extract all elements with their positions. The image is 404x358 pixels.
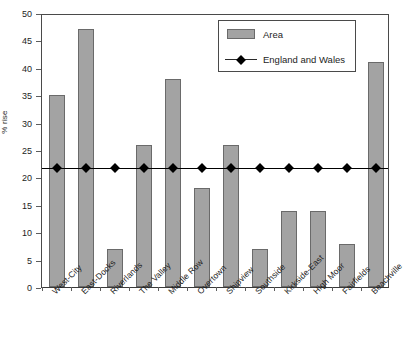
bar-slot — [42, 15, 71, 287]
y-axis-tick-label: 35 — [10, 91, 32, 101]
legend: Area England and Wales — [218, 20, 356, 72]
bar-slot — [129, 15, 158, 287]
y-axis-tick-label: 40 — [10, 64, 32, 74]
bar[interactable] — [368, 62, 384, 287]
y-axis-tick-label: 0 — [10, 283, 32, 293]
bar[interactable] — [49, 95, 65, 287]
legend-label-england-and-wales: England and Wales — [263, 54, 345, 65]
bar-slot — [71, 15, 100, 287]
bar-slot — [187, 15, 216, 287]
legend-entry-area: Area — [219, 21, 355, 47]
legend-swatch-wrap-area — [219, 21, 263, 47]
bar[interactable] — [165, 79, 181, 287]
legend-swatch-wrap-line — [219, 46, 263, 72]
y-axis-tick-label: 25 — [10, 146, 32, 156]
y-axis-tick-label: 30 — [10, 119, 32, 129]
y-axis-tick-label: 5 — [10, 256, 32, 266]
reference-line — [42, 168, 388, 169]
line-diamond-icon — [225, 59, 257, 60]
bar-swatch-icon — [227, 29, 255, 39]
y-axis-tick-label: 50 — [10, 9, 32, 19]
y-axis-tick-label: 15 — [10, 201, 32, 211]
legend-label-area: Area — [263, 29, 283, 40]
y-axis-tick-labels: 05101520253035404550 — [6, 0, 32, 358]
y-axis-tick-label: 45 — [10, 36, 32, 46]
y-axis-tick-label: 10 — [10, 228, 32, 238]
bar-slot — [158, 15, 187, 287]
y-axis-tick-label: 20 — [10, 173, 32, 183]
bar[interactable] — [78, 29, 94, 287]
bar-slot — [361, 15, 390, 287]
legend-entry-england-and-wales: England and Wales — [219, 46, 355, 72]
bar-slot — [100, 15, 129, 287]
x-axis-tick-labels: West-CityEast-DocksRiverlandsThe ValleyM… — [41, 289, 389, 358]
